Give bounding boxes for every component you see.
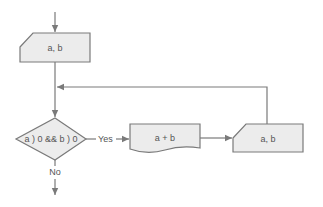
flowchart-canvas: a, b a ) 0 && b ) 0 Yes a + b a, b No bbox=[0, 0, 323, 207]
input-node-right[interactable]: a, b bbox=[233, 124, 303, 152]
decision-label: a ) 0 && b ) 0 bbox=[24, 134, 77, 144]
no-label: No bbox=[49, 167, 61, 177]
document-label: a + b bbox=[155, 133, 175, 143]
input-right-label: a, b bbox=[260, 134, 275, 144]
decision-node[interactable]: a ) 0 && b ) 0 bbox=[16, 118, 86, 160]
loop-back-arrow bbox=[57, 87, 267, 124]
input-top-label: a, b bbox=[47, 43, 62, 53]
yes-label: Yes bbox=[98, 134, 113, 144]
document-node[interactable]: a + b bbox=[130, 124, 200, 153]
input-node-top[interactable]: a, b bbox=[20, 33, 90, 62]
